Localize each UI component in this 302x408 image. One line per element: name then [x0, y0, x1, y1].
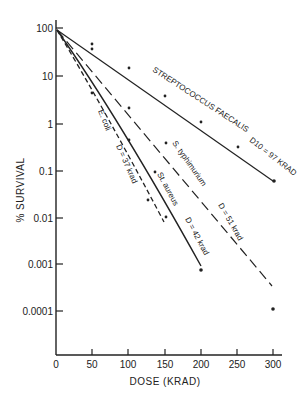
series-e-coli: E. coli D = 37 krad: [57, 30, 167, 222]
y-tick-label: 0.0001: [22, 306, 53, 317]
x-axis-label: DOSE (KRAD): [129, 376, 200, 387]
y-ticks: [56, 28, 63, 311]
label-s-typhimurium-d: D = 51 krad: [216, 202, 245, 243]
label-s-faecalis: STREPTOCOCCUS FAECALIS: [151, 65, 250, 134]
series-s-faecalis: STREPTOCOCCUS FAECALIS D10 = 97 KRAD: [57, 30, 299, 183]
y-tick-label: 1: [47, 119, 53, 130]
y-tick-label: 10: [42, 71, 54, 82]
x-tick-label: 250: [229, 359, 246, 370]
survival-chart: 100 10 1 0.1 0.01 0.001 0.0001 0 50 100 …: [0, 0, 302, 408]
label-st-aureus: St. aureus: [155, 171, 180, 207]
y-tick-label: 0.1: [39, 166, 53, 177]
x-tick-label: 300: [265, 359, 282, 370]
x-tick-labels: 0 50 100 150 200 250 300: [53, 359, 282, 370]
x-tick-label: 50: [86, 359, 98, 370]
y-tick-label: 0.001: [28, 259, 53, 270]
y-tick-label: 100: [36, 23, 53, 34]
label-s-typhimurium: S. typhimurium: [170, 139, 208, 188]
y-tick-label: 0.01: [34, 213, 54, 224]
y-axis-label: % SURVIVAL: [15, 157, 26, 222]
x-tick-label: 200: [193, 359, 210, 370]
series-st-aureus: St. aureus D = 42 krad: [57, 30, 211, 272]
label-s-faecalis-d: D10 = 97 KRAD: [248, 135, 299, 177]
x-tick-label: 0: [53, 359, 59, 370]
x-tick-label: 150: [157, 359, 174, 370]
label-e-coli-d: D = 37 krad: [114, 143, 139, 185]
y-tick-labels: 100 10 1 0.1 0.01 0.001 0.0001: [22, 23, 53, 317]
x-ticks: [92, 349, 273, 355]
x-tick-label: 100: [120, 359, 137, 370]
label-st-aureus-d: D = 42 krad: [183, 216, 210, 257]
